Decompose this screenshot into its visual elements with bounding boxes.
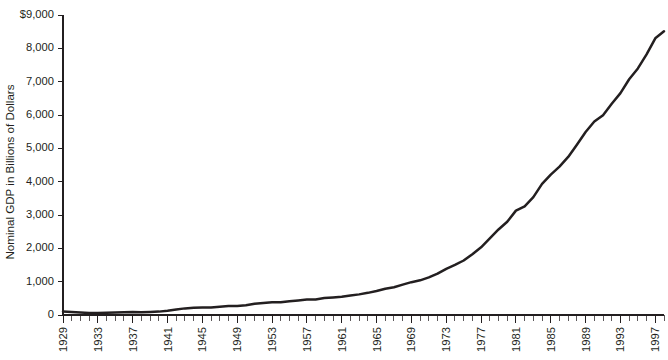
x-tick-label: 1945 [196,327,208,352]
x-tick-label: 1985 [545,327,557,352]
chart-canvas: Nominal GDP in Billions of Dollars $9,00… [0,0,668,360]
x-tick-label: 1941 [162,327,174,352]
x-tick-label: 1949 [231,327,243,352]
x-tick-label: 1969 [405,327,417,352]
x-axis-labels: 1929193319371941194519491953195719611965… [57,327,661,352]
gdp-series-line [63,31,664,313]
y-tick-label: 8,000 [26,41,54,53]
y-tick-label: 5,000 [26,141,54,153]
x-tick-label: 1961 [336,327,348,352]
y-tick-label: $9,000 [20,8,54,20]
x-tick-label: 1993 [614,327,626,352]
x-tick-label: 1989 [580,327,592,352]
x-axis-ticks [63,315,664,323]
x-tick-label: 1981 [510,327,522,352]
x-tick-label: 1953 [266,327,278,352]
y-tick-label: 0 [48,308,54,320]
y-tick-label: 2,000 [26,241,54,253]
x-tick-label: 1933 [92,327,104,352]
x-tick-label: 1937 [127,327,139,352]
x-tick-label: 1929 [57,327,69,352]
y-axis-title-group: Nominal GDP in Billions of Dollars [3,84,16,259]
x-tick-label: 1973 [440,327,452,352]
y-tick-label: 7,000 [26,75,54,87]
y-tick-label: 4,000 [26,175,54,187]
y-tick-label: 3,000 [26,208,54,220]
gdp-line-chart: Nominal GDP in Billions of Dollars $9,00… [0,0,668,360]
x-tick-label: 1965 [371,327,383,352]
x-tick-label: 1957 [301,327,313,352]
y-tick-label: 6,000 [26,108,54,120]
y-axis-title: Nominal GDP in Billions of Dollars [3,84,16,259]
x-tick-label: 1997 [649,327,661,352]
x-tick-label: 1977 [475,327,487,352]
y-axis-ticks: $9,0008,0007,0006,0005,0004,0003,0002,00… [20,8,63,320]
y-tick-label: 1,000 [26,275,54,287]
